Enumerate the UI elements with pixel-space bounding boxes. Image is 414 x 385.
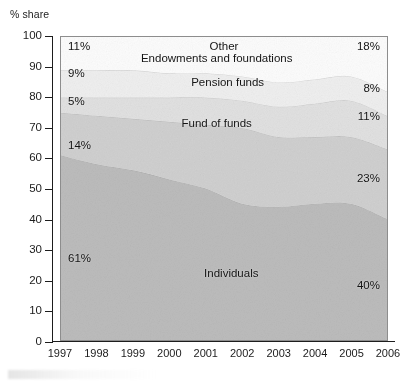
- value-label-other-1997: 11%: [68, 40, 90, 52]
- y-axis-tick-label: 60: [0, 152, 42, 164]
- y-axis-tick-mark: [45, 97, 53, 98]
- series-label-fund-of-funds: Fund of funds: [182, 117, 252, 129]
- y-axis-tick-mark: [45, 189, 53, 190]
- y-axis-tick-mark: [45, 36, 53, 37]
- y-axis-tick-label: 10: [0, 305, 42, 317]
- value-label-endowments-1997: 9%: [68, 67, 85, 79]
- series-label-endowments-and-foundations: Endowments and foundations: [141, 52, 293, 64]
- value-label-pension-funds-1997: 5%: [68, 95, 85, 107]
- y-axis-tick-mark: [45, 250, 53, 251]
- x-axis-line: [52, 341, 395, 342]
- y-axis-tick-mark: [45, 311, 53, 312]
- y-axis-tick-mark: [45, 281, 53, 282]
- value-label-other-2006: 18%: [357, 40, 380, 52]
- y-axis-tick-label: 20: [0, 275, 42, 287]
- x-axis-tick-label: 2006: [365, 348, 411, 359]
- value-label-individuals-1997: 61%: [68, 252, 91, 264]
- value-label-fund-of-funds-2006: 23%: [357, 172, 380, 184]
- y-axis-tick-label: 90: [0, 61, 42, 73]
- y-axis-tick-mark: [45, 342, 53, 343]
- y-axis-tick-label: 0: [0, 336, 42, 348]
- y-axis-tick-label: 30: [0, 244, 42, 256]
- value-label-fund-of-funds-1997: 14%: [68, 139, 91, 151]
- value-label-individuals-2006: 40%: [357, 279, 380, 291]
- y-axis-tick-label: 40: [0, 214, 42, 226]
- page-smudge: [8, 370, 158, 379]
- value-label-pension-funds-2006: 11%: [358, 110, 380, 122]
- y-axis-tick-label: 50: [0, 183, 42, 195]
- y-axis-tick-label: 70: [0, 122, 42, 134]
- y-axis-tick-label: 80: [0, 91, 42, 103]
- stacked-area-chart: % share 0102030405060708090100 199719981…: [0, 0, 414, 385]
- value-label-endowments-2006: 8%: [363, 82, 380, 94]
- y-axis-tick-mark: [45, 128, 53, 129]
- y-axis-tick-mark: [45, 158, 53, 159]
- series-label-individuals: Individuals: [204, 267, 258, 279]
- y-axis-tick-mark: [45, 220, 53, 221]
- y-axis-tick-mark: [45, 67, 53, 68]
- y-axis-title: % share: [10, 8, 49, 20]
- series-label-pension-funds: Pension funds: [191, 76, 264, 88]
- y-axis-tick-label: 100: [0, 30, 42, 42]
- series-label-other: Other: [210, 40, 239, 52]
